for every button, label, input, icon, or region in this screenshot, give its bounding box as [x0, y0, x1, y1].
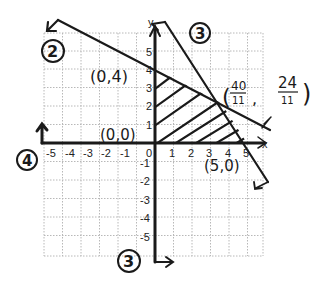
svg-text:5: 5	[243, 147, 249, 159]
annotation-point-5-0: (5,0)	[204, 157, 240, 175]
svg-text:1: 1	[146, 119, 152, 131]
constraint-label-4: 4	[17, 150, 37, 170]
svg-text:2: 2	[188, 147, 194, 159]
svg-text:-3: -3	[140, 194, 150, 206]
graph-canvas: y x -5 -4 -3 -2 -1 0 1 2 3 4 5 1 2 3 4 5…	[0, 0, 333, 286]
annotation-intersection: ( 40 11 , 24 11 )	[222, 74, 311, 109]
svg-text:-4: -4	[65, 147, 75, 159]
svg-text:2: 2	[47, 42, 58, 61]
annotation-point-0-0: (0,0)	[100, 126, 136, 144]
svg-text:-5: -5	[140, 231, 150, 243]
svg-text:): )	[302, 80, 311, 108]
y-axis-label: y	[148, 16, 154, 28]
svg-text:5: 5	[146, 46, 152, 58]
x-axis-label: x	[262, 138, 268, 150]
svg-text:1: 1	[169, 147, 175, 159]
svg-text:3: 3	[123, 252, 134, 271]
svg-text:-2: -2	[140, 175, 150, 187]
svg-text:(: (	[222, 84, 231, 109]
svg-text:-1: -1	[120, 147, 130, 159]
svg-text:-1: -1	[140, 157, 150, 169]
annotation-point-0-4: (0,4)	[90, 67, 128, 86]
svg-text:,: ,	[252, 89, 257, 108]
svg-text:4: 4	[146, 64, 152, 76]
svg-text:2: 2	[146, 100, 152, 112]
svg-text:11: 11	[281, 95, 294, 106]
svg-text:40: 40	[231, 79, 246, 93]
svg-text:3: 3	[195, 25, 205, 43]
constraint-label-3-bottom: 3	[118, 250, 140, 272]
svg-text:11: 11	[232, 95, 245, 106]
svg-text:24: 24	[278, 74, 297, 92]
svg-text:3: 3	[146, 82, 152, 94]
svg-text:-2: -2	[101, 147, 111, 159]
svg-text:-4: -4	[140, 212, 150, 224]
svg-text:-5: -5	[46, 147, 56, 159]
svg-text:-3: -3	[83, 147, 93, 159]
svg-text:4: 4	[22, 152, 32, 170]
